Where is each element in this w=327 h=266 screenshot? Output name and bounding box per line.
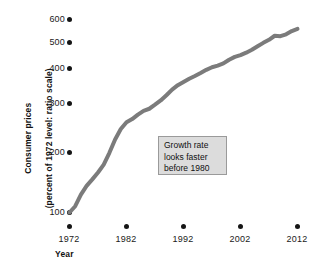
x-tick-label-2002: 2002	[220, 234, 260, 244]
x-tick-label-1982: 1982	[106, 234, 146, 244]
x-tick-dot-2002	[238, 224, 243, 229]
annotation-line-1: Growth rate	[164, 140, 222, 152]
series-line-consumer-prices	[70, 29, 298, 213]
x-tick-dot-1982	[124, 224, 129, 229]
chart-container: Consumer prices (percent of 1972 level: …	[0, 0, 327, 266]
x-tick-dot-1992	[181, 224, 186, 229]
data-series-layer	[0, 0, 327, 266]
x-tick-dot-1972	[67, 224, 72, 229]
x-tick-label-1992: 1992	[163, 234, 203, 244]
annotation-line-3: before 1980	[164, 163, 222, 175]
annotation-line-2: looks faster	[164, 152, 222, 164]
x-tick-dot-2012	[295, 224, 300, 229]
annotation-growth-rate-note: Growth rate looks faster before 1980	[158, 136, 227, 175]
x-axis-title: Year	[55, 249, 74, 259]
x-tick-label-2012: 2012	[277, 234, 317, 244]
x-tick-label-1972: 1972	[49, 234, 89, 244]
